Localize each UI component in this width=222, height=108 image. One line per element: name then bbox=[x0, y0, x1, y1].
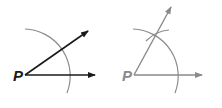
right-compass-arc bbox=[133, 29, 178, 93]
right-angled-ray bbox=[134, 7, 171, 75]
right-figure bbox=[133, 7, 202, 93]
left-angled-ray bbox=[25, 31, 88, 75]
left-vertex-label: P bbox=[13, 68, 23, 83]
left-figure bbox=[25, 29, 95, 93]
left-compass-arc bbox=[25, 29, 70, 93]
angle-construction-diagram bbox=[0, 0, 222, 108]
right-vertex-label: P bbox=[122, 68, 132, 83]
